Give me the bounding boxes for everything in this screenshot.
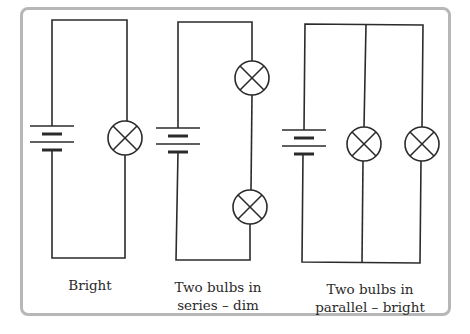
- circuit-parallel: [282, 24, 439, 263]
- cell-battery-icon: [282, 130, 326, 154]
- wire: [251, 95, 252, 190]
- cell-battery-icon: [156, 128, 200, 152]
- wire: [362, 161, 363, 262]
- caption-line: Bright: [50, 276, 130, 294]
- bulb-icon: [233, 190, 267, 224]
- bulb-icon: [108, 121, 142, 155]
- caption-line: series – dim: [163, 296, 273, 314]
- caption-line: Two bulbs in: [163, 278, 273, 296]
- caption-series: Two bulbs in series – dim: [163, 278, 273, 314]
- wire: [364, 25, 366, 127]
- caption-parallel: Two bulbs in parallel – bright: [305, 280, 435, 316]
- caption-line: Two bulbs in: [305, 280, 435, 298]
- caption-line: parallel – bright: [305, 298, 435, 316]
- circuit-single-bulb: [30, 20, 142, 258]
- bulb-icon: [347, 127, 381, 161]
- bulb-icon: [235, 61, 269, 95]
- cell-battery-icon: [30, 126, 74, 150]
- caption-single: Bright: [50, 276, 130, 294]
- wire: [52, 20, 127, 126]
- wire: [52, 150, 125, 258]
- bulb-icon: [405, 127, 439, 161]
- circuit-series: [156, 22, 269, 260]
